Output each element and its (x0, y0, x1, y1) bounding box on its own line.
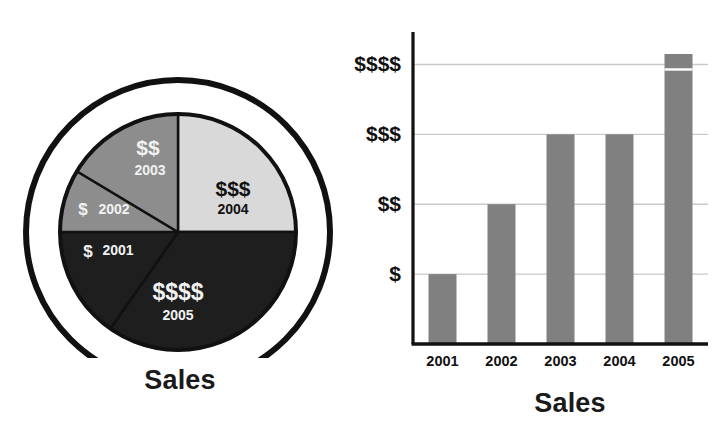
bar-chart-svg: $$$$$$$$$$20012002200320042005 (310, 14, 719, 394)
pie-chart-caption: Sales (0, 365, 360, 396)
x-axis-label-2004: 2004 (603, 353, 635, 369)
pie-slice-value-2001: $ (83, 242, 93, 261)
pie-slice-year-2003: 2003 (134, 162, 165, 178)
chart-page: $$$2004$$$$2005$2001$2002$$2003 Sales $$… (0, 0, 719, 441)
pie-slice-value-2004: $$$ (215, 177, 250, 200)
pie-slice-value-2003: $$ (136, 136, 160, 159)
pie-chart-panel: $$$2004$$$$2005$2001$2002$$2003 Sales (0, 0, 360, 441)
bar-2004[interactable] (606, 134, 634, 344)
bar-2005[interactable] (665, 54, 693, 344)
x-axis-label-2005: 2005 (662, 353, 694, 369)
pie-slice-year-2004: 2004 (217, 201, 248, 217)
bar-2002[interactable] (488, 204, 516, 344)
y-axis-label-2: $$ (378, 192, 402, 215)
y-axis-label-1: $ (389, 262, 401, 285)
bar-2001[interactable] (429, 274, 457, 344)
pie-chart-svg: $$$2004$$$$2005$2001$2002$$2003 (18, 48, 342, 358)
pie-slice-year-2001: 2001 (102, 242, 133, 258)
x-axis-label-2003: 2003 (544, 353, 576, 369)
x-axis-label-2002: 2002 (485, 353, 517, 369)
pie-slice-value-2005: $$$$ (152, 279, 203, 305)
bar-chart-panel: $$$$$$$$$$20012002200320042005 Sales (360, 0, 719, 441)
pie-slice-year-2002: 2002 (98, 201, 129, 217)
y-axis-label-3: $$$ (366, 122, 401, 145)
pie-slice-year-2005: 2005 (162, 307, 193, 323)
bar-chart-caption: Sales (420, 388, 719, 419)
x-axis-label-2001: 2001 (426, 353, 458, 369)
bar-2003[interactable] (547, 134, 575, 344)
y-axis-label-4: $$$$ (354, 52, 401, 75)
pie-slice-value-2002: $ (78, 200, 88, 219)
